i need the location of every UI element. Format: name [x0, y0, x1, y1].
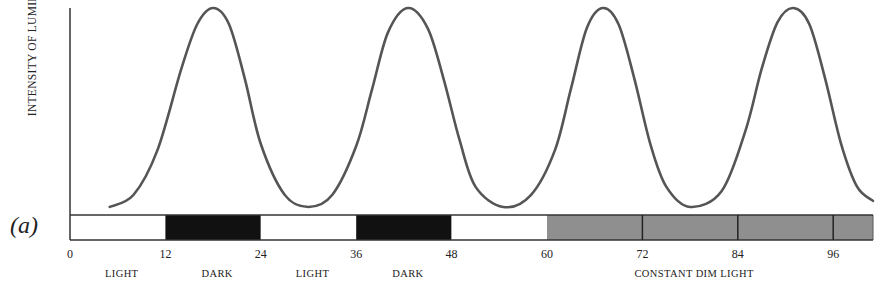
x-tick-label: 60 — [541, 247, 553, 262]
schedule-segment — [547, 215, 873, 240]
schedule-segment — [356, 215, 451, 240]
phase-label: DARK — [201, 268, 232, 279]
panel-label: (a) — [10, 212, 38, 239]
schedule-segment — [452, 215, 547, 240]
schedule-segment — [70, 215, 165, 240]
x-tick-label: 12 — [159, 247, 171, 262]
x-tick-label: 24 — [255, 247, 267, 262]
phase-label: LIGHT — [296, 268, 330, 279]
x-tick-label: 96 — [827, 247, 839, 262]
x-tick-label: 36 — [350, 247, 362, 262]
x-tick-label: 0 — [67, 247, 73, 262]
x-tick-label: 48 — [446, 247, 458, 262]
phase-label: CONSTANT DIM LIGHT — [634, 268, 753, 279]
schedule-segment — [261, 215, 356, 240]
light-schedule-bar — [70, 215, 873, 240]
luminescence-curve — [110, 8, 873, 207]
x-tick-label: 84 — [732, 247, 744, 262]
luminescence-chart — [0, 0, 882, 294]
x-tick-label: 72 — [636, 247, 648, 262]
phase-label: DARK — [392, 268, 423, 279]
schedule-segment — [165, 215, 260, 240]
y-axis-label: INTENSITY OF LUMINESCENCE — [26, 0, 40, 128]
phase-label: LIGHT — [105, 268, 139, 279]
